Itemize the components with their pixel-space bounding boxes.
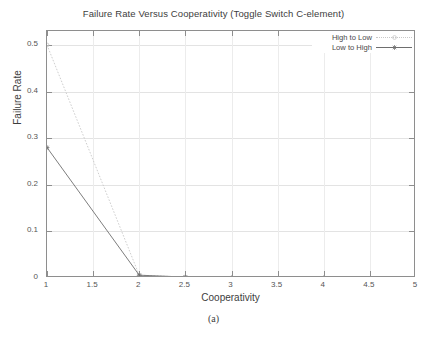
x-axis-tick-label: 2.5	[164, 280, 204, 289]
data-point-marker	[47, 145, 49, 150]
y-axis-tick-label: 0.4	[4, 86, 38, 95]
x-axis-tick-label: 2	[118, 280, 158, 289]
x-axis-label: Cooperativity	[46, 292, 415, 303]
chart-legend: High to LowLow to High	[312, 31, 414, 53]
figure-container: Failure Rate Versus Cooperativity (Toggl…	[0, 0, 427, 337]
plot-area	[46, 30, 415, 277]
x-axis-tick-label: 5	[395, 280, 427, 289]
y-axis-tick-label: 0.2	[4, 179, 38, 188]
y-axis-tick-label: 0.3	[4, 132, 38, 141]
legend-entry[interactable]: High to Low	[312, 32, 412, 42]
x-axis-tick-label: 1.5	[72, 280, 112, 289]
legend-marker	[391, 34, 398, 41]
x-axis-tick-label: 4	[303, 280, 343, 289]
chart-title: Failure Rate Versus Cooperativity (Toggl…	[0, 8, 427, 19]
series-layer	[47, 31, 414, 276]
legend-entry-label: Low to High	[332, 43, 372, 52]
y-axis-tick-label: 0.5	[4, 39, 38, 48]
x-axis-tick-label: 3.5	[257, 280, 297, 289]
x-axis-tick-label: 3	[211, 280, 251, 289]
data-point-marker	[183, 275, 188, 276]
legend-marker	[391, 44, 398, 51]
legend-sample-circle-icon	[376, 33, 412, 42]
series-line-1	[47, 45, 414, 276]
series-line-2	[47, 148, 414, 276]
x-axis-tick-label: 1	[26, 280, 66, 289]
legend-entry-label: High to Low	[332, 33, 372, 42]
y-axis-tick-label: 0.1	[4, 225, 38, 234]
figure-caption: (a)	[0, 313, 427, 324]
legend-sample-star-icon	[376, 43, 412, 52]
legend-entry[interactable]: Low to High	[312, 42, 412, 52]
plot-inner	[47, 31, 414, 276]
x-axis-tick-label: 4.5	[349, 280, 389, 289]
